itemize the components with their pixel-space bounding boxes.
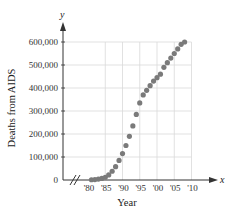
data-point: [137, 100, 142, 105]
data-point: [134, 112, 139, 117]
y-tick-label: 0: [54, 175, 59, 185]
x-tick-label: '90: [118, 183, 129, 193]
y-axis-label: Deaths from AIDS: [6, 68, 17, 147]
x-axis-arrow-icon: [209, 177, 218, 183]
x-tick-label: '85: [101, 183, 112, 193]
data-point: [116, 158, 121, 163]
data-point: [127, 134, 132, 139]
x-tick-label: '10: [187, 183, 198, 193]
y-tick-label: 500,000: [29, 60, 59, 70]
data-point: [182, 39, 187, 44]
data-point: [158, 72, 163, 77]
x-axis-variable: x: [219, 174, 225, 185]
y-tick-label: 300,000: [29, 106, 59, 116]
data-point: [172, 51, 177, 56]
scatter-chart: 0100,000200,000300,000400,000500,000600,…: [0, 0, 228, 216]
y-tick-label: 400,000: [29, 83, 59, 93]
data-point: [148, 83, 153, 88]
x-axis-label: Year: [117, 197, 137, 208]
data-point: [161, 65, 166, 70]
data-point: [110, 169, 115, 174]
y-axis-arrow-icon: [60, 22, 66, 31]
data-point: [168, 56, 173, 61]
data-point: [141, 92, 146, 97]
y-tick-label: 100,000: [29, 152, 59, 162]
x-tick-label: '80: [84, 183, 95, 193]
y-tick-label: 600,000: [29, 37, 59, 47]
y-axis-variable: y: [59, 9, 65, 20]
x-tick-label: '00: [153, 183, 164, 193]
data-point: [130, 123, 135, 128]
y-tick-label: 200,000: [29, 129, 59, 139]
x-tick-label: '95: [135, 183, 146, 193]
x-tick-labels: '80'85'90'95'00'05'10: [84, 183, 199, 193]
data-point: [123, 143, 128, 148]
data-point: [144, 88, 149, 93]
data-point: [113, 164, 118, 169]
data-point: [175, 46, 180, 51]
x-tick-label: '05: [170, 183, 181, 193]
data-point: [165, 60, 170, 65]
y-tick-labels: 0100,000200,000300,000400,000500,000600,…: [29, 37, 65, 185]
grid-lines: [63, 42, 192, 180]
data-point: [120, 151, 125, 156]
